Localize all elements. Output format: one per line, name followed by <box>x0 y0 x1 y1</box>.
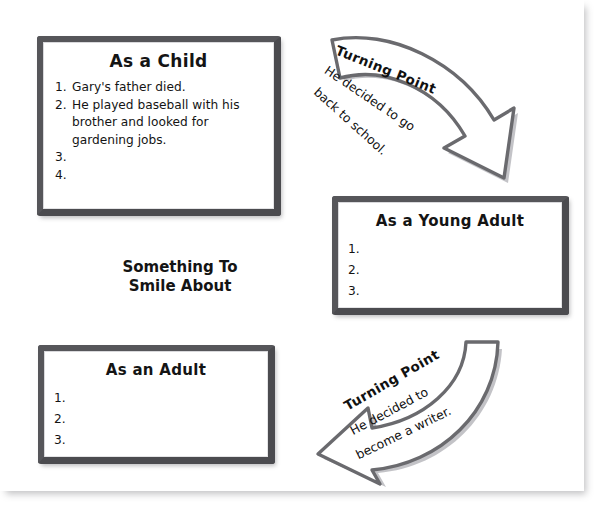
list-item-number: 2. <box>55 97 72 115</box>
list-item[interactable]: 1. <box>348 239 562 260</box>
list-item[interactable]: 2. He played baseball with his brother a… <box>55 97 274 150</box>
list-item[interactable]: 3. <box>54 430 268 451</box>
list-item[interactable]: 1. <box>54 388 268 409</box>
list-item-text: Gary's father died. <box>72 79 274 97</box>
list-item[interactable]: 2. <box>54 409 268 430</box>
list-item[interactable]: 3. <box>348 281 562 302</box>
board-title-as-an-adult: As an Adult <box>44 361 268 379</box>
arrow-turning-point-top[interactable]: Turning Point He decided to go back to s… <box>318 24 518 194</box>
board-as-a-child[interactable]: As a Child 1. Gary's father died. 2. He … <box>37 36 281 216</box>
list-item-number: 2. <box>54 409 71 430</box>
list-item-number: 3. <box>348 281 365 302</box>
list-item-number: 3. <box>55 149 72 167</box>
list-item-number: 1. <box>348 239 365 260</box>
list-item-number: 2. <box>348 260 365 281</box>
list-item[interactable]: 1. Gary's father died. <box>55 79 274 97</box>
board-list-as-a-child: 1. Gary's father died. 2. He played base… <box>43 79 274 184</box>
center-heading-line-1: Something To <box>100 258 260 277</box>
board-face: As a Child 1. Gary's father died. 2. He … <box>43 42 274 209</box>
list-item-number: 1. <box>54 388 71 409</box>
board-as-an-adult[interactable]: As an Adult 1. 2. 3. <box>38 345 275 464</box>
board-list-as-a-young-adult: 1. 2. 3. <box>338 239 562 302</box>
list-item[interactable]: 3. <box>55 149 274 167</box>
board-face: As a Young Adult 1. 2. 3. <box>338 202 562 308</box>
list-item[interactable]: 2. <box>348 260 562 281</box>
worksheet-canvas: As a Child 1. Gary's father died. 2. He … <box>0 0 610 519</box>
list-item-number: 4. <box>55 167 72 185</box>
board-title-as-a-young-adult: As a Young Adult <box>338 212 562 230</box>
list-item-text: He played baseball with his brother and … <box>72 97 274 150</box>
arrow-turning-point-bottom[interactable]: Turning Point He decided to become a wri… <box>312 336 507 481</box>
center-heading: Something To Smile About <box>100 258 260 296</box>
list-item-number: 3. <box>54 430 71 451</box>
center-heading-line-2: Smile About <box>100 277 260 296</box>
board-as-a-young-adult[interactable]: As a Young Adult 1. 2. 3. <box>332 196 569 315</box>
board-list-as-an-adult: 1. 2. 3. <box>44 388 268 451</box>
list-item-number: 1. <box>55 79 72 97</box>
list-item[interactable]: 4. <box>55 167 274 185</box>
board-title-as-a-child: As a Child <box>43 51 274 71</box>
board-face: As an Adult 1. 2. 3. <box>44 351 268 457</box>
